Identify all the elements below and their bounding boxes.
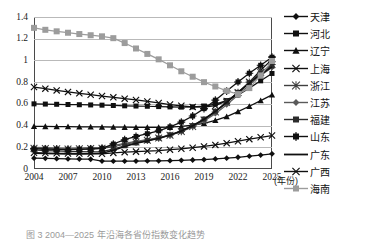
y-tick-label: 1.4 [0,12,28,22]
legend-marker-icon [283,79,309,92]
y-tick-label: 0 [0,164,28,174]
legend-item-广西[interactable]: 广西 [283,163,379,180]
y-tick-label: 0.6 [0,98,28,108]
plot-area [34,17,272,169]
figure-caption: 图 3 2004—2025 年沿海各省份指数变化趋势 [26,228,286,239]
x-tick-label: 2022 [221,173,255,183]
legend-label: 江苏 [310,95,330,110]
x-tick-label: 2019 [187,173,221,183]
legend-marker-icon [283,165,309,178]
legend-label: 辽宁 [310,43,330,58]
legend-item-浙江[interactable]: 浙江 [283,77,379,94]
legend-item-上海[interactable]: 上海 [283,60,379,77]
x-tick-label: 2007 [51,173,85,183]
x-tick-label: 2010 [85,173,119,183]
y-tick-label: 0.4 [0,120,28,130]
legend-marker-icon [283,10,309,23]
y-tick-label: 0.8 [0,77,28,87]
legend-item-江苏[interactable]: 江苏 [283,94,379,111]
legend-marker-icon [283,44,309,57]
legend-marker-icon [283,113,309,126]
x-tick-label: 2004 [17,173,51,183]
legend-label: 福建 [310,112,330,127]
legend-marker-icon [283,62,309,75]
legend-item-福建[interactable]: 福建 [283,111,379,128]
chart-legend: 天津河北辽宁上海浙江江苏福建山东广东广西海南 [283,8,379,197]
series-辽宁 [31,92,275,130]
legend-label: 浙江 [310,78,330,93]
legend-label: 河北 [310,26,330,41]
series-江苏 [31,65,275,152]
legend-label: 天津 [310,9,330,24]
series-海南 [31,25,275,97]
legend-marker-icon [283,96,309,109]
y-tick-label: 0.2 [0,142,28,152]
legend-marker-icon [283,27,309,40]
legend-item-天津[interactable]: 天津 [283,8,379,25]
x-tick-label: 2016 [153,173,187,183]
legend-marker-icon [283,182,309,195]
series-广西 [31,132,275,156]
legend-label: 广东 [310,147,330,162]
legend-item-海南[interactable]: 海南 [283,180,379,197]
legend-item-辽宁[interactable]: 辽宁 [283,42,379,59]
x-tick-label: 2013 [119,173,153,183]
legend-item-山东[interactable]: 山东 [283,128,379,145]
legend-label: 山东 [310,129,330,144]
legend-item-广东[interactable]: 广东 [283,146,379,163]
y-tick-label: 1.2 [0,33,28,43]
series-layer [34,17,272,169]
figure-container: 00.20.40.60.811.21.4 2004200720102013201… [0,0,381,240]
legend-item-河北[interactable]: 河北 [283,25,379,42]
legend-marker-icon [283,130,309,143]
legend-label: 广西 [310,164,330,179]
legend-label: 上海 [310,61,330,76]
legend-marker-icon [283,148,309,161]
legend-label: 海南 [310,181,330,196]
y-tick-label: 1 [0,55,28,65]
